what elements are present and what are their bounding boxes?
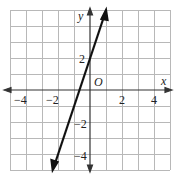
coordinate-plane bbox=[0, 0, 176, 176]
y-tick-label: 2 bbox=[79, 53, 85, 65]
y-tick-label: −2 bbox=[74, 118, 87, 130]
x-tick-label: −4 bbox=[14, 94, 27, 106]
axes bbox=[4, 8, 172, 172]
x-tick-label: −2 bbox=[46, 94, 59, 106]
y-axis-label: y bbox=[78, 10, 83, 22]
x-axis-label: x bbox=[161, 75, 166, 87]
x-tick-label: 2 bbox=[119, 94, 125, 106]
origin-label: O bbox=[94, 76, 103, 88]
x-tick-label: 4 bbox=[151, 94, 157, 106]
y-tick-label: −4 bbox=[74, 150, 87, 162]
